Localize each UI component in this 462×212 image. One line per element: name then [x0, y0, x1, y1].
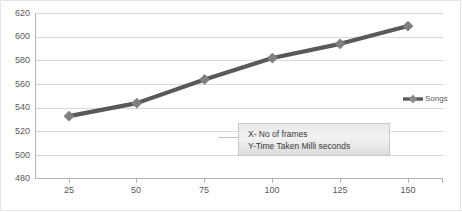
legend-label-songs: Songs [425, 95, 448, 103]
data-point-marker [64, 111, 75, 122]
legend-marker-icon [403, 94, 423, 104]
annotation-line-y: Y-Time Taken Milli seconds [248, 140, 389, 152]
annotation-connector-line [218, 137, 240, 138]
line-chart: 620 600 580 560 540 520 500 480 25 50 75… [0, 0, 462, 212]
data-point-marker [131, 98, 142, 109]
data-point-marker [403, 21, 414, 32]
annotation-line-x: X- No of frames [248, 128, 389, 140]
data-point-marker [199, 74, 210, 85]
annotation-textbox: X- No of frames Y-Time Taken Milli secon… [238, 123, 390, 156]
data-point-marker [335, 38, 346, 49]
chart-legend: Songs [403, 94, 448, 104]
data-point-marker [267, 53, 278, 64]
series-layer [0, 0, 462, 212]
series-line-songs [69, 26, 408, 116]
